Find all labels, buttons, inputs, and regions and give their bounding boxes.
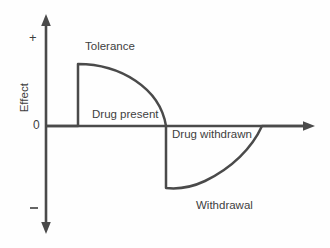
annotation-drug-present: Drug present [92,109,158,121]
annotation-drug-withdrawn: Drug withdrawn [172,129,252,141]
annotation-tolerance: Tolerance [85,41,135,53]
y-axis-zero-tick-label: 0 [33,119,40,131]
y-axis-positive-tick-label: + [29,31,37,44]
diagram-canvas [0,0,330,248]
y-axis-title: Effect [19,71,31,125]
drug-tolerance-withdrawal-diagram: + 0 − Effect Tolerance Drug present Drug… [0,0,330,248]
y-axis-up-arrowhead [41,14,51,26]
annotation-withdrawal: Withdrawal [196,200,253,212]
y-axis-down-arrowhead [41,222,51,234]
